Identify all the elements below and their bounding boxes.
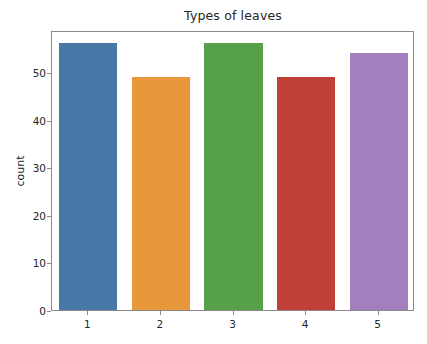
x-tick-label-1: 1 xyxy=(67,318,107,330)
x-tick-label-3: 3 xyxy=(213,318,253,330)
chart-title: Types of leaves xyxy=(51,8,415,23)
bar-5 xyxy=(350,53,408,310)
figure-canvas: Types of leaves count 01020304050 12345 xyxy=(0,0,427,344)
y-tick-label-40: 40 xyxy=(6,115,46,127)
bars-layer xyxy=(52,32,413,310)
bar-1 xyxy=(59,43,117,310)
x-tick-mark-5 xyxy=(378,311,379,315)
bar-2 xyxy=(132,77,190,310)
y-tick-label-0: 0 xyxy=(6,305,46,317)
x-tick-mark-4 xyxy=(305,311,306,315)
y-tick-label-50: 50 xyxy=(6,67,46,79)
y-tick-label-10: 10 xyxy=(6,257,46,269)
x-tick-mark-1 xyxy=(87,311,88,315)
y-tick-mark-0 xyxy=(47,311,51,312)
y-tick-label-20: 20 xyxy=(6,210,46,222)
bar-4 xyxy=(277,77,335,310)
y-tick-label-30: 30 xyxy=(6,162,46,174)
bar-3 xyxy=(204,43,262,310)
plot-area xyxy=(51,31,414,311)
x-tick-label-2: 2 xyxy=(140,318,180,330)
x-tick-label-5: 5 xyxy=(358,318,398,330)
x-tick-label-4: 4 xyxy=(285,318,325,330)
x-tick-mark-3 xyxy=(233,311,234,315)
x-tick-mark-2 xyxy=(160,311,161,315)
